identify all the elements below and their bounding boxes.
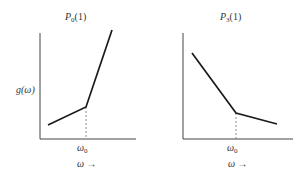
diagram-canvas [0, 0, 300, 178]
right-xtick-subscript: 0 [234, 147, 238, 155]
left-curve-g-omega [48, 30, 112, 125]
right-xtick-omega0: ω0 [227, 143, 238, 155]
y-axis-label: g(ω) [16, 85, 35, 95]
right-x-axis-label: ω → [228, 159, 248, 169]
left-x-axis-label: ω → [77, 159, 97, 169]
right-panel-title: P3(1) [220, 12, 241, 24]
left-panel-axes [40, 30, 136, 139]
left-xtick-symbol: ω [77, 142, 84, 153]
right-curve-g-omega [192, 53, 277, 124]
right-title-argument: (1) [230, 11, 242, 22]
right-panel-axes [183, 33, 293, 139]
right-xtick-symbol: ω [227, 142, 234, 153]
left-xtick-omega0: ω0 [77, 143, 88, 155]
left-panel-title: P0(1) [65, 12, 86, 24]
left-title-argument: (1) [75, 11, 87, 22]
left-xtick-subscript: 0 [84, 147, 88, 155]
